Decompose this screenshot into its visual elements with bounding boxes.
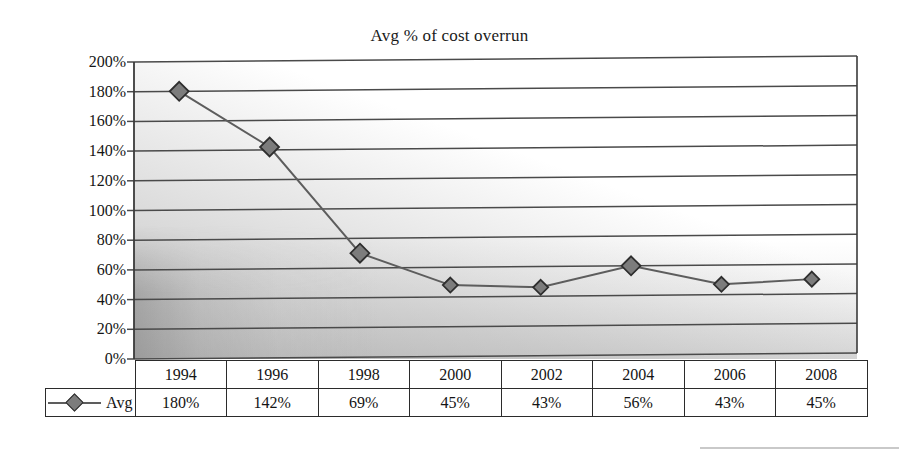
y-tick-label: 140%: [54, 143, 126, 159]
table-header-cell: 2002: [501, 361, 593, 389]
data-point-marker: [170, 82, 189, 101]
table-header-row: 19941996199820002002200420062008: [46, 361, 868, 389]
chart-title: Avg % of cost overrun: [0, 26, 899, 46]
legend-line-icon: [82, 402, 101, 404]
plot-canvas: [134, 62, 857, 359]
table-header-cell: 2006: [684, 361, 776, 389]
table-data-cell: 69%: [318, 389, 410, 417]
table-header-cell: 1998: [318, 361, 410, 389]
data-point-marker: [533, 280, 548, 295]
data-point-marker: [622, 256, 641, 275]
y-tick-label: 160%: [54, 113, 126, 129]
series-markers-avg: [170, 82, 820, 295]
table-header-cell: 1994: [135, 361, 227, 389]
table-header-cell: 2000: [410, 361, 502, 389]
y-tick-label: 80%: [54, 232, 126, 248]
y-tick-label: 120%: [54, 173, 126, 189]
table-data-cell: 56%: [593, 389, 685, 417]
table-data-row: Avg 180%142%69%45%43%56%43%45%: [46, 389, 868, 417]
y-tick-label: 100%: [54, 203, 126, 219]
legend-entry-avg: Avg: [46, 389, 135, 416]
data-point-marker: [443, 278, 458, 293]
table-data-cell: 142%: [227, 389, 319, 417]
table-data-cell: 43%: [501, 389, 593, 417]
legend-label-avg: Avg: [106, 394, 132, 412]
table-data-cell: 180%: [135, 389, 227, 417]
table-data-cell: 43%: [684, 389, 776, 417]
diamond-marker-icon: [65, 393, 83, 411]
y-tick-label: 180%: [54, 84, 126, 100]
gridlines: [127, 56, 857, 359]
y-tick-label: 200%: [54, 54, 126, 70]
table-header-corner-cell: [46, 361, 136, 389]
y-tick-label: 60%: [54, 262, 126, 278]
table-header-cell: 2008: [776, 361, 868, 389]
legend-cell: Avg: [46, 389, 136, 417]
data-point-marker: [804, 272, 819, 287]
table-header-cell: 1996: [227, 361, 319, 389]
table-data-cell: 45%: [410, 389, 502, 417]
y-tick-label: 40%: [54, 292, 126, 308]
table-header-cell: 2004: [593, 361, 685, 389]
plot-area: [134, 62, 857, 359]
data-table: 19941996199820002002200420062008 Avg 180…: [45, 360, 868, 417]
page-scan-artifact-line: [700, 447, 899, 449]
table-data-cell: 45%: [776, 389, 868, 417]
y-tick-label: 20%: [54, 321, 126, 337]
data-point-marker: [714, 277, 729, 292]
